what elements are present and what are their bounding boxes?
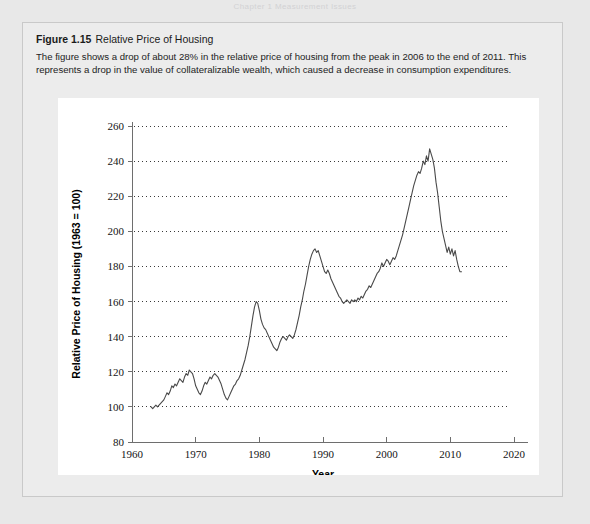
y-tick-label-260: 260 (108, 120, 125, 132)
figure-number: Figure 1.15 (36, 33, 91, 45)
figure-box: Figure 1.15Relative Price of Housing The… (22, 22, 563, 497)
y-tick-label-220: 220 (108, 190, 125, 202)
x-tick-label-1960: 1960 (121, 448, 144, 460)
data-series (151, 149, 461, 409)
y-tick-label-120: 120 (108, 366, 125, 378)
y-tick-label-80: 80 (113, 436, 125, 448)
y-tick-label-200: 200 (108, 225, 125, 237)
figure-title-line: Figure 1.15Relative Price of Housing (36, 32, 552, 47)
x-tick-label-1990: 1990 (312, 448, 335, 460)
x-tick-label-2000: 2000 (376, 448, 399, 460)
series-line-relative-price-of-housing (151, 149, 461, 409)
figure-description: The figure shows a drop of about 28% in … (36, 50, 552, 77)
y-axis: 80100120140160180200220240260 (108, 120, 133, 448)
x-axis: 1960197019801990200020102020 (121, 437, 528, 460)
y-tick-label-100: 100 (108, 401, 125, 413)
figure-caption: Figure 1.15Relative Price of Housing The… (36, 32, 552, 77)
y-tick-label-140: 140 (108, 331, 125, 343)
y-tick-label-160: 160 (108, 296, 125, 308)
y-axis-title: Relative Price of Housing (1963 = 100) (70, 189, 82, 378)
x-tick-label-1970: 1970 (185, 448, 208, 460)
page-header-remnant: Chapter 1 Measurement Issues (0, 0, 590, 14)
x-axis-title: Year (312, 468, 334, 475)
x-tick-label-1980: 1980 (248, 448, 270, 460)
chart-area: 80100120140160180200220240260 1960197019… (58, 98, 539, 475)
y-tick-label-240: 240 (108, 155, 125, 167)
y-tick-label-180: 180 (108, 260, 125, 272)
x-tick-label-2010: 2010 (439, 448, 462, 460)
figure-title: Relative Price of Housing (95, 33, 213, 45)
line-chart: 80100120140160180200220240260 1960197019… (58, 98, 539, 475)
plot-panel: 80100120140160180200220240260 1960197019… (58, 98, 539, 475)
gridlines (134, 126, 508, 407)
x-tick-label-2020: 2020 (503, 448, 526, 460)
